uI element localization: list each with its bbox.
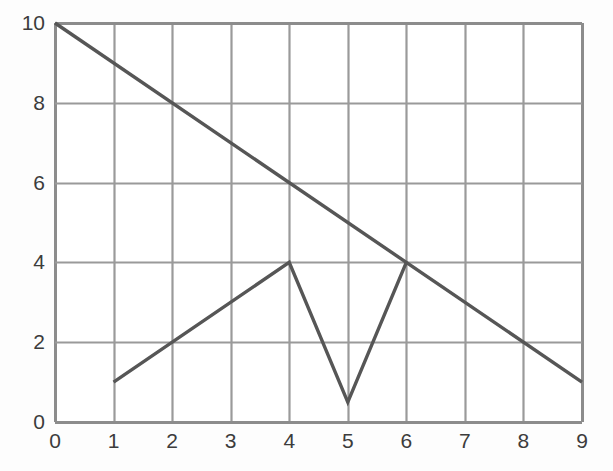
x-tick-label-0: 0 [49, 429, 61, 452]
line-chart: 0246810 0123456789 [0, 0, 613, 471]
x-tick-label-8: 8 [518, 429, 530, 452]
y-tick-label-4: 4 [33, 250, 45, 273]
x-tick-label-4: 4 [283, 429, 295, 452]
plot-area-background [55, 23, 582, 422]
x-tick-label-5: 5 [342, 429, 354, 452]
y-tick-label-10: 10 [22, 11, 45, 34]
x-tick-label-7: 7 [459, 429, 471, 452]
y-tick-label-2: 2 [33, 330, 45, 353]
x-tick-label-6: 6 [400, 429, 412, 452]
chart-container: 0246810 0123456789 [0, 0, 613, 471]
x-tick-label-2: 2 [166, 429, 178, 452]
y-tick-label-6: 6 [33, 171, 45, 194]
x-tick-label-3: 3 [225, 429, 237, 452]
y-tick-label-8: 8 [33, 91, 45, 114]
x-tick-label-9: 9 [576, 429, 588, 452]
y-tick-label-0: 0 [33, 410, 45, 433]
x-tick-label-1: 1 [108, 429, 120, 452]
